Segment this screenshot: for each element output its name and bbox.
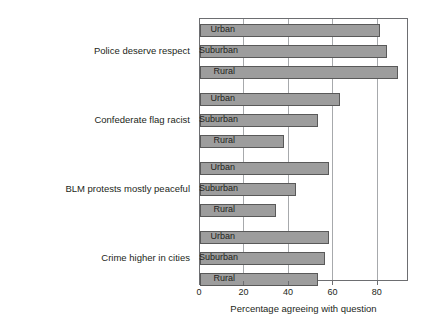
y-tick-label-rural: Rural	[199, 135, 235, 145]
group-label-0: Police deserve respect	[94, 45, 190, 56]
y-tick-label-urban: Urban	[199, 231, 235, 241]
gridline-60	[332, 19, 333, 280]
x-axis-tick-0	[199, 281, 200, 285]
x-axis-tick-40	[288, 281, 289, 285]
y-tick-label-suburban: Suburban	[199, 114, 235, 124]
x-tick-label-40: 40	[273, 287, 303, 298]
x-tick-label-80: 80	[362, 287, 392, 298]
y-tick-label-suburban: Suburban	[199, 45, 235, 55]
y-tick-label-urban: Urban	[199, 24, 235, 34]
x-axis-tick-20	[243, 281, 244, 285]
x-tick-label-20: 20	[228, 287, 258, 298]
y-tick-label-urban: Urban	[199, 93, 235, 103]
y-tick-label-urban: Urban	[199, 162, 235, 172]
x-axis-title: Percentage agreeing with question	[199, 303, 408, 315]
y-tick-label-rural: Rural	[199, 204, 235, 214]
bar-chart-figure: UrbanSuburbanRuralPolice deserve respect…	[0, 0, 431, 329]
group-label-3: Crime higher in cities	[101, 252, 190, 263]
y-tick-label-suburban: Suburban	[199, 183, 235, 193]
y-tick-label-suburban: Suburban	[199, 252, 235, 262]
x-tick-label-0: 0	[184, 287, 214, 298]
group-label-2: BLM protests mostly peaceful	[65, 183, 190, 194]
group-label-1: Confederate flag racist	[94, 114, 190, 125]
gridline-80	[377, 19, 378, 280]
y-tick-label-rural: Rural	[199, 273, 235, 283]
x-axis-tick-60	[332, 281, 333, 285]
x-tick-label-60: 60	[317, 287, 347, 298]
x-axis-tick-80	[377, 281, 378, 285]
plot-area	[199, 18, 408, 281]
y-tick-label-rural: Rural	[199, 66, 235, 76]
